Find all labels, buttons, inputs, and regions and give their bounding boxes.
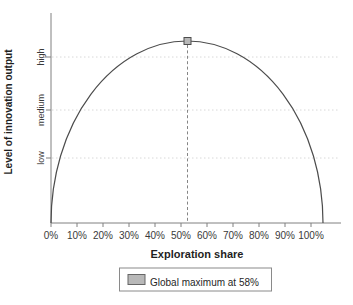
legend-swatch-icon bbox=[128, 275, 145, 285]
x-tick-label: 20% bbox=[93, 230, 113, 241]
y-ticks bbox=[46, 57, 51, 158]
x-tick-label: 30% bbox=[119, 230, 139, 241]
y-axis-title: Level of innovation output bbox=[3, 49, 14, 175]
gridlines bbox=[52, 57, 340, 158]
x-tick-label: 50% bbox=[171, 230, 191, 241]
x-axis-title: Exploration share bbox=[151, 248, 244, 260]
x-tick-label: 100% bbox=[298, 230, 324, 241]
chart-canvas: high medium low Level of innovation outp… bbox=[0, 0, 353, 305]
x-tick-label: 10% bbox=[67, 230, 87, 241]
x-tick-label: 40% bbox=[145, 230, 165, 241]
x-tick-label: 90% bbox=[275, 230, 295, 241]
legend: Global maximum at 58% bbox=[120, 268, 272, 291]
y-tick-label: low bbox=[36, 151, 46, 165]
x-tick-label: 70% bbox=[223, 230, 243, 241]
legend-label: Global maximum at 58% bbox=[150, 277, 259, 288]
x-tick-label: 80% bbox=[249, 230, 269, 241]
global-maximum-marker bbox=[184, 38, 191, 45]
innovation-output-chart: high medium low Level of innovation outp… bbox=[0, 0, 353, 305]
x-tick-label: 60% bbox=[197, 230, 217, 241]
x-ticks bbox=[51, 223, 311, 227]
y-tick-label: high bbox=[36, 48, 46, 65]
y-tick-label: medium bbox=[36, 94, 46, 126]
x-tick-label: 0% bbox=[44, 230, 59, 241]
